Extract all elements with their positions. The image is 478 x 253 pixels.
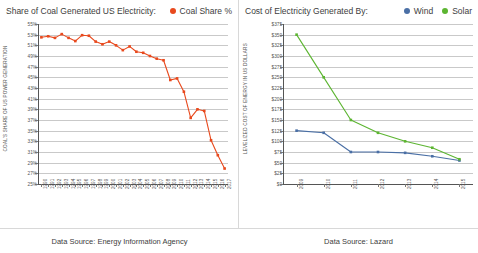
data-point-marker bbox=[196, 108, 199, 111]
coal-chart-header: Share of Coal Generated US Electricity: … bbox=[0, 0, 238, 18]
data-point-marker bbox=[404, 152, 407, 155]
data-point-marker bbox=[54, 37, 57, 40]
data-point-marker bbox=[404, 140, 407, 143]
data-point-marker bbox=[217, 154, 220, 157]
data-point-marker bbox=[377, 151, 380, 154]
coal-chart-title: Share of Coal Generated US Electricity: bbox=[6, 6, 156, 16]
coal-share-panel: Share of Coal Generated US Electricity: … bbox=[0, 0, 239, 253]
data-point-marker bbox=[101, 43, 104, 46]
coal-source-caption: Data Source: Energy Information Agency bbox=[0, 228, 239, 253]
legend-item-solar: Solar bbox=[442, 6, 472, 16]
legend-dot-icon bbox=[170, 8, 176, 14]
data-point-marker bbox=[183, 90, 186, 93]
data-point-marker bbox=[162, 59, 165, 62]
data-point-marker bbox=[295, 129, 298, 132]
cost-plot-area: LEVELIZED COST OF ENERGY IN US DOLLARS $… bbox=[239, 18, 478, 228]
coal-legend: Coal Share % bbox=[161, 6, 232, 16]
coal-plot-area: COAL'S SHARE OF US POWER GENERATION 55%5… bbox=[0, 18, 239, 228]
cost-legend: Wind Solar bbox=[395, 6, 472, 16]
legend-dot-icon bbox=[404, 8, 410, 14]
data-point-marker bbox=[223, 167, 226, 170]
cost-chart-title: Cost of Electricity Generated By: bbox=[245, 6, 368, 16]
data-point-marker bbox=[94, 40, 97, 43]
data-point-marker bbox=[135, 50, 138, 53]
coal-series-line bbox=[0, 18, 239, 228]
data-point-marker bbox=[155, 57, 158, 60]
data-point-marker bbox=[60, 33, 63, 36]
data-point-marker bbox=[169, 79, 172, 82]
data-point-marker bbox=[47, 35, 50, 38]
legend-dot-icon bbox=[442, 8, 448, 14]
data-point-marker bbox=[431, 155, 434, 158]
data-point-marker bbox=[81, 34, 84, 37]
charts-container: Share of Coal Generated US Electricity: … bbox=[0, 0, 478, 253]
data-point-marker bbox=[88, 34, 91, 37]
series-line-coal-share- bbox=[41, 34, 224, 168]
data-point-marker bbox=[210, 139, 213, 142]
data-point-marker bbox=[203, 110, 206, 113]
data-point-marker bbox=[149, 55, 152, 58]
data-point-marker bbox=[40, 36, 43, 39]
cost-series-lines bbox=[239, 18, 478, 228]
legend-label-coal-share: Coal Share % bbox=[180, 6, 232, 16]
lazard-source-caption: Data Source: Lazard bbox=[239, 228, 478, 253]
data-point-marker bbox=[322, 132, 325, 135]
data-point-marker bbox=[350, 151, 353, 154]
data-point-marker bbox=[122, 49, 125, 52]
series-line-solar bbox=[297, 35, 460, 160]
data-point-marker bbox=[128, 45, 131, 48]
data-point-marker bbox=[350, 119, 353, 122]
data-point-marker bbox=[431, 146, 434, 149]
data-point-marker bbox=[458, 158, 461, 161]
data-point-marker bbox=[322, 76, 325, 79]
data-point-marker bbox=[295, 33, 298, 36]
cost-chart-header: Cost of Electricity Generated By: Wind S… bbox=[239, 0, 478, 18]
data-point-marker bbox=[189, 117, 192, 120]
data-point-marker bbox=[115, 44, 118, 47]
data-point-marker bbox=[176, 77, 179, 80]
legend-item-coal-share: Coal Share % bbox=[170, 6, 232, 16]
legend-label-solar: Solar bbox=[452, 6, 472, 16]
series-line-wind bbox=[297, 131, 460, 161]
legend-item-wind: Wind bbox=[404, 6, 433, 16]
data-point-marker bbox=[74, 40, 77, 43]
data-point-marker bbox=[142, 52, 145, 55]
data-point-marker bbox=[108, 40, 111, 43]
legend-label-wind: Wind bbox=[414, 6, 433, 16]
data-point-marker bbox=[67, 37, 70, 40]
data-point-marker bbox=[377, 132, 380, 135]
energy-cost-panel: Cost of Electricity Generated By: Wind S… bbox=[239, 0, 478, 253]
